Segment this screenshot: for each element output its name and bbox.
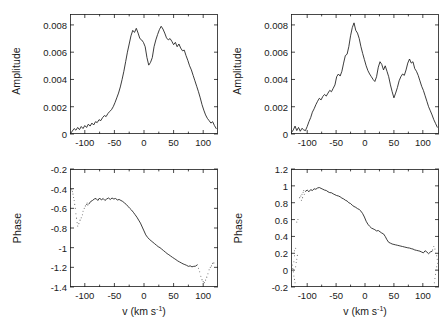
x-tick-label: -50 xyxy=(329,137,343,148)
x-tick-label: 50 xyxy=(168,290,179,301)
amplitude-axis-label-left: Amplitude xyxy=(10,31,22,111)
y-tick-label: 0.6 xyxy=(242,214,288,225)
panel-bottom-right-phase: Phase -0.200.20.40.60.811.2 -100-5005010… xyxy=(220,160,439,330)
y-tick-label: 0.006 xyxy=(21,47,67,58)
plot-top-right-amplitude xyxy=(291,14,439,134)
y-tick-label: 0 xyxy=(242,129,288,140)
y-tick-label: 0 xyxy=(21,129,67,140)
amplitude-axis-label-right: Amplitude xyxy=(231,31,243,111)
y-tick-label: -1.2 xyxy=(21,262,67,273)
plot-bottom-left-phase xyxy=(70,169,218,287)
x-tick-label: -50 xyxy=(108,290,122,301)
y-tick-label: -0.2 xyxy=(242,282,288,293)
y-tick-label: 0.008 xyxy=(21,19,67,30)
x-tick-label: 100 xyxy=(415,137,431,148)
x-tick-label: 0 xyxy=(141,137,146,148)
y-tick-label: 0.002 xyxy=(242,101,288,112)
x-tick-label: 50 xyxy=(389,290,400,301)
figure-container: Amplitude 00.0020.0040.0060.008 -100-500… xyxy=(0,0,439,330)
y-tick-label: 0.4 xyxy=(242,231,288,242)
x-tick-label: 100 xyxy=(415,290,431,301)
panel-top-left-amplitude: Amplitude 00.0020.0040.0060.008 -100-500… xyxy=(0,0,220,160)
y-tick-label: 0.006 xyxy=(242,47,288,58)
x-tick-label: 100 xyxy=(195,290,211,301)
velocity-axis-label-left: v (km s-1) xyxy=(70,305,218,317)
velocity-label-suffix: ) xyxy=(383,305,387,317)
x-tick-label: 0 xyxy=(362,137,367,148)
y-tick-label: -1 xyxy=(21,242,67,253)
x-tick-label: 0 xyxy=(362,290,367,301)
velocity-label-prefix: v (km s xyxy=(122,305,156,317)
x-tick-label: -100 xyxy=(75,137,94,148)
y-tick-label: 0.004 xyxy=(21,74,67,85)
plot-top-left-amplitude xyxy=(70,14,218,134)
x-tick-label: 50 xyxy=(389,137,400,148)
velocity-label-suffix: ) xyxy=(162,305,166,317)
x-tick-label: 100 xyxy=(195,137,211,148)
y-tick-label: 0.8 xyxy=(242,197,288,208)
x-tick-label: -50 xyxy=(108,137,122,148)
x-tick-label: -100 xyxy=(75,290,94,301)
y-tick-label: 1 xyxy=(242,180,288,191)
panel-bottom-left-phase: Phase -1.4-1.2-1-0.8-0.6-0.4-0.2 -100-50… xyxy=(0,160,220,330)
x-tick-label: 50 xyxy=(168,137,179,148)
y-tick-label: -0.4 xyxy=(21,183,67,194)
panel-top-right-amplitude: Amplitude 00.0020.0040.0060.008 -100-500… xyxy=(220,0,439,160)
y-tick-label: -0.8 xyxy=(21,223,67,234)
y-tick-label: 0.008 xyxy=(242,19,288,30)
x-tick-label: -100 xyxy=(298,290,317,301)
y-tick-label: 1.2 xyxy=(242,164,288,175)
y-tick-label: -0.2 xyxy=(21,164,67,175)
plot-bottom-right-phase xyxy=(291,169,439,287)
y-tick-label: -0.6 xyxy=(21,203,67,214)
y-tick-label: 0.004 xyxy=(242,74,288,85)
x-tick-label: -100 xyxy=(298,137,317,148)
y-tick-label: 0 xyxy=(242,265,288,276)
velocity-label-prefix: v (km s xyxy=(343,305,377,317)
y-tick-label: 0.2 xyxy=(242,248,288,259)
y-tick-label: 0.002 xyxy=(21,101,67,112)
x-tick-label: -50 xyxy=(329,290,343,301)
x-tick-label: 0 xyxy=(141,290,146,301)
velocity-axis-label-right: v (km s-1) xyxy=(291,305,439,317)
y-tick-label: -1.4 xyxy=(21,282,67,293)
